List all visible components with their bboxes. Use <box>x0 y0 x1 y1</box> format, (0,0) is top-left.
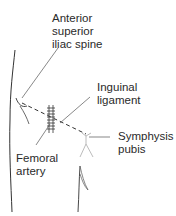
femoral-artery-mark <box>47 105 55 133</box>
leader-femoral-artery <box>36 124 50 145</box>
genital-outline <box>80 166 88 190</box>
label-symphysis-pubis: Symphysis pubis <box>118 130 174 156</box>
label-asis: Anterior superior iliac spine <box>52 12 103 51</box>
leader-asis <box>22 48 58 98</box>
hip-fold <box>20 106 29 124</box>
label-inguinal-ligament: Inguinal ligament <box>97 81 140 107</box>
body-outline-left <box>10 50 15 212</box>
iliac-crest-curve <box>16 98 27 107</box>
symphysis-pubis-mark <box>80 133 93 157</box>
leader-inguinal-ligament <box>60 97 90 123</box>
label-femoral-artery: Femoral artery <box>16 152 58 178</box>
inner-thigh-line <box>78 166 80 212</box>
